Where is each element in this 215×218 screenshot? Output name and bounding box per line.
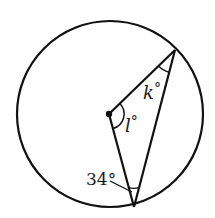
label-34-degrees: 34° — [86, 169, 116, 189]
chord — [134, 50, 175, 207]
center-point — [106, 111, 112, 117]
angle-arc-k — [159, 66, 170, 72]
angle-arc-34 — [129, 188, 139, 189]
radius-top-right — [109, 50, 175, 114]
label-k: k° — [143, 80, 161, 103]
circle-diagram: k° l° 34° — [0, 0, 215, 218]
label-l: l° — [125, 113, 138, 136]
